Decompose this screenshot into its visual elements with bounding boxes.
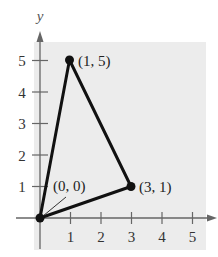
point-0-0 — [36, 214, 45, 223]
triangle-plot: 1 2 3 4 5 1 2 3 4 5 y (1, 5) (3, 1) (0, … — [0, 0, 218, 257]
x-tick-label: 1 — [67, 229, 75, 245]
x-tick-label: 2 — [97, 229, 105, 245]
y-tick-label: 1 — [18, 179, 26, 195]
point-label-0-0: (0, 0) — [53, 178, 86, 195]
x-axis-arrow-icon — [207, 215, 217, 222]
x-tick-label: 3 — [128, 229, 136, 245]
plot-background — [34, 42, 206, 250]
x-tick-label: 5 — [189, 229, 197, 245]
y-tick-label: 5 — [18, 53, 26, 69]
y-tick-labels: 1 2 3 4 5 — [18, 53, 26, 195]
y-axis-label: y — [35, 8, 44, 24]
point-1-5 — [65, 56, 74, 65]
point-label-1-5: (1, 5) — [78, 53, 111, 70]
y-tick-label: 3 — [18, 116, 26, 132]
x-tick-label: 4 — [158, 229, 166, 245]
y-tick-label: 2 — [18, 148, 26, 164]
point-label-3-1: (3, 1) — [139, 179, 172, 196]
y-tick-label: 4 — [18, 85, 26, 101]
point-3-1 — [127, 182, 136, 191]
y-axis-arrow-icon — [37, 31, 44, 42]
